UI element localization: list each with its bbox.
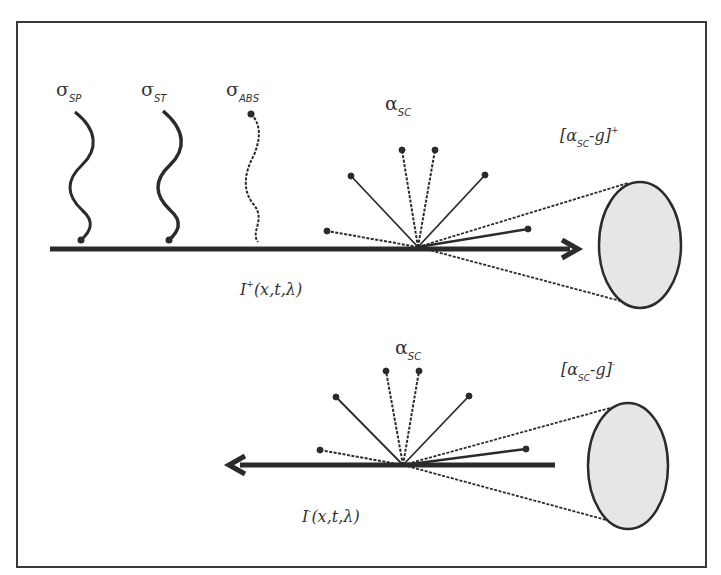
sigma-symbol: σ <box>226 78 239 100</box>
label-sigma-sp: σSP <box>56 78 81 100</box>
intensity-forward-args: (x,t,λ) <box>254 280 302 299</box>
sigma-st-dot <box>166 237 173 244</box>
sigma-abs-wave <box>246 114 259 242</box>
cone-top-subscript: SC <box>577 139 589 149</box>
cone-top-mid: -g] <box>589 126 611 145</box>
sigma-st-wave <box>158 111 181 240</box>
sigma-symbol: σ <box>56 78 69 100</box>
cone-bottom-mid: -g] <box>590 360 612 379</box>
cone-top-superscript: + <box>611 125 619 135</box>
intensity-backward-args: (x,t,λ) <box>311 507 359 526</box>
alpha-sc-subscript: SC <box>408 351 421 362</box>
alpha-symbol: α <box>385 92 398 114</box>
scatter-fan-bottom <box>317 368 529 465</box>
sigma-sp-dot <box>78 237 85 244</box>
scatter-cone-top <box>418 182 681 308</box>
cone-bottom-open: [α <box>561 360 578 379</box>
sigma-abs-dot <box>248 111 255 118</box>
sigma-abs-subscript: ABS <box>239 93 259 104</box>
diagram-canvas <box>0 0 721 575</box>
sigma-sp-subscript: SP <box>69 93 81 104</box>
alpha-symbol: α <box>395 336 408 358</box>
cone-top-open: [α <box>560 126 577 145</box>
label-cone-top: [αSC-g]+ <box>560 126 618 145</box>
cone-bottom-superscript: - <box>612 359 615 369</box>
label-intensity-forward: I+(x,t,λ) <box>240 280 302 299</box>
label-sigma-st: σST <box>141 78 166 100</box>
sigma-sp-wave <box>70 112 93 240</box>
cone-bottom-subscript: SC <box>578 373 590 383</box>
sigma-st-subscript: ST <box>154 93 166 104</box>
label-intensity-backward: I-(x,t,λ) <box>302 507 360 526</box>
scatter-fan-top <box>324 147 531 247</box>
label-cone-bottom: [αSC-g]- <box>561 360 615 379</box>
label-sigma-abs: σABS <box>226 78 259 100</box>
alpha-sc-subscript: SC <box>398 107 411 118</box>
intensity-forward-superscript: + <box>246 279 254 289</box>
intensity-backward-superscript: - <box>308 506 311 516</box>
sigma-symbol: σ <box>141 78 154 100</box>
label-alpha-sc-top: αSC <box>385 92 411 114</box>
label-alpha-sc-bottom: αSC <box>395 336 421 358</box>
